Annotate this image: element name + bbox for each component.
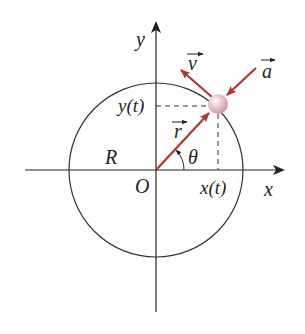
angle-label: θ	[188, 146, 198, 168]
y-of-t-label: y(t)	[116, 95, 144, 117]
acceleration-vector-label: a	[262, 60, 272, 82]
position-vector-label: r	[174, 120, 182, 142]
origin-label: O	[135, 175, 149, 197]
y-axis-label: y	[134, 28, 145, 51]
circular-motion-diagram: y x O R θ x(t) y(t) r v a	[0, 0, 305, 334]
x-axis-label: x	[263, 178, 273, 200]
x-of-t-label: x(t)	[199, 177, 226, 199]
radius-label: R	[104, 146, 117, 168]
particle-ball	[208, 94, 228, 114]
angle-arc	[176, 150, 184, 170]
acceleration-vector	[227, 68, 256, 95]
velocity-vector-label: v	[188, 52, 197, 74]
